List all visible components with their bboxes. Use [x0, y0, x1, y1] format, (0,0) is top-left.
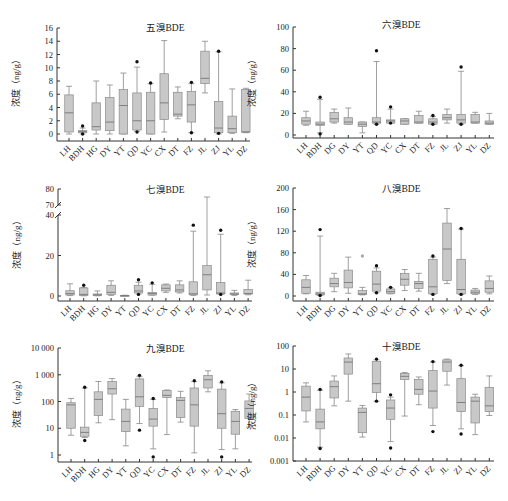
- outlier-point: [389, 446, 392, 449]
- box-iqr: [134, 285, 143, 293]
- box: [471, 394, 480, 434]
- y-tick-label: 0: [49, 129, 53, 139]
- box: [457, 65, 466, 126]
- box: [386, 286, 395, 294]
- x-tick-label: FZ: [422, 140, 436, 154]
- box-iqr: [485, 121, 494, 124]
- box: [214, 49, 223, 135]
- box-iqr: [302, 386, 311, 411]
- outlier-point: [318, 132, 321, 135]
- y-tick-label: 10 000: [31, 343, 54, 353]
- x-tick-label: YC: [379, 303, 395, 319]
- box: [189, 223, 198, 295]
- x-tick-label: QD: [364, 463, 380, 479]
- box: [92, 81, 101, 134]
- x-tick-label: YL: [464, 463, 479, 478]
- outlier-point: [152, 455, 155, 458]
- outlier-point: [375, 357, 378, 360]
- y-tick-label: 16: [45, 23, 54, 33]
- box-iqr: [316, 122, 325, 125]
- outlier-point: [83, 439, 86, 442]
- box: [400, 119, 409, 124]
- box-iqr: [187, 92, 196, 122]
- box-iqr: [302, 280, 311, 294]
- x-tick-label: DY: [336, 303, 352, 319]
- box: [443, 359, 452, 385]
- box: [429, 360, 438, 433]
- x-tick-label: FZ: [422, 303, 436, 317]
- box: [67, 398, 76, 435]
- box-iqr: [203, 266, 212, 290]
- box-iqr: [189, 282, 198, 295]
- box: [429, 254, 438, 296]
- outlier-point: [318, 96, 321, 99]
- box: [119, 73, 128, 134]
- box: [471, 112, 480, 123]
- box-iqr: [344, 358, 353, 374]
- box: [372, 264, 381, 294]
- box-iqr: [204, 375, 213, 388]
- box: [162, 284, 171, 292]
- box: [302, 383, 311, 422]
- y-tick-label: 10: [45, 63, 54, 73]
- box: [231, 410, 240, 449]
- x-tick-label: YC: [379, 140, 395, 156]
- box: [228, 89, 237, 133]
- box: [302, 111, 311, 125]
- box: [358, 254, 367, 295]
- outlier-point: [431, 293, 434, 296]
- box: [201, 41, 210, 93]
- box-iqr: [217, 389, 226, 428]
- outlier-point: [217, 132, 220, 135]
- y-tick-label: 40: [281, 87, 290, 97]
- box: [386, 393, 395, 449]
- outlier-point: [149, 81, 152, 84]
- chart-title: 五溴BDE: [146, 22, 185, 33]
- box: [66, 284, 75, 296]
- box-iqr: [80, 427, 89, 436]
- x-tick-label: YC: [379, 463, 395, 479]
- y-axis-label: 浓度（ng/g）: [246, 216, 257, 268]
- box-iqr: [94, 392, 103, 416]
- chart-panel: 六溴BDE浓度（ng/g）020406080100LHBDHDGDYYTQDYC…: [246, 19, 494, 160]
- x-tick-label: FZ: [184, 464, 198, 478]
- box-iqr: [231, 411, 240, 434]
- x-tick-label: BDH: [67, 303, 87, 323]
- y-tick-label: 14: [45, 36, 54, 46]
- outlier-point: [375, 264, 378, 267]
- y-tick-label: 200: [276, 183, 289, 193]
- box-iqr: [344, 118, 353, 124]
- outlier-point: [361, 254, 364, 257]
- outlier-point: [431, 123, 434, 126]
- box: [133, 60, 142, 134]
- y-tick-label: 0.01: [274, 433, 289, 443]
- x-tick-label: FZ: [422, 463, 436, 477]
- box: [108, 379, 117, 420]
- x-tick-label: YT: [351, 140, 367, 156]
- box: [330, 273, 339, 291]
- box: [457, 364, 466, 436]
- box: [415, 377, 424, 405]
- box: [204, 371, 213, 392]
- outlier-point: [318, 447, 321, 450]
- y-tick-label: 6: [49, 89, 53, 99]
- x-tick-label: ZJ: [212, 464, 226, 478]
- box: [176, 391, 185, 422]
- outlier-point: [152, 397, 155, 400]
- box: [121, 295, 130, 296]
- outlier-point: [459, 65, 462, 68]
- outlier-point: [137, 293, 140, 296]
- chart-title: 八溴BDE: [382, 183, 421, 194]
- box: [190, 379, 199, 453]
- x-tick-label: BDH: [304, 303, 324, 323]
- box-iqr: [108, 381, 117, 394]
- box-iqr: [443, 114, 452, 119]
- outlier-point: [389, 286, 392, 289]
- box-iqr: [106, 98, 115, 131]
- box: [187, 81, 196, 135]
- x-tick-label: DY: [336, 140, 352, 156]
- box: [344, 354, 353, 401]
- chart-panel: 八溴BDE浓度（ng/g）04080120160200LHBDHDGDYYTQD…: [246, 183, 494, 323]
- outlier-point: [431, 114, 434, 117]
- outlier-point: [459, 364, 462, 367]
